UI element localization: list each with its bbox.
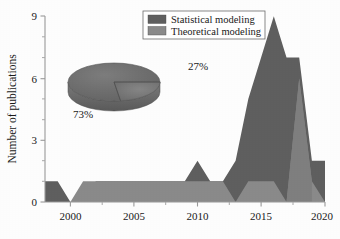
x-tick-label-2010: 2010 (187, 210, 210, 222)
x-tick-label-2020: 2020 (311, 210, 334, 222)
x-tick-label-2005: 2005 (123, 210, 146, 222)
legend-swatch-theoretical-modeling[interactable] (148, 27, 166, 36)
pie-label-27: 27% (188, 60, 208, 72)
x-tick-label-2015: 2015 (250, 210, 273, 222)
y-tick-label-0: 0 (32, 196, 38, 208)
y-tick-label-6: 6 (32, 73, 38, 85)
x-tick-label-2000: 2000 (59, 210, 82, 222)
legend-swatch-statistical-modeling[interactable] (148, 15, 166, 24)
publications-area-chart: 0 3 6 9 2000 2005 2010 2015 2020 Number … (0, 0, 340, 239)
y-tick-label-3: 3 (32, 134, 38, 146)
chart-legend[interactable]: Statistical modeling Theoretical modelin… (143, 11, 265, 39)
pie-label-73: 73% (73, 108, 93, 120)
legend-label-theoretical-modeling[interactable]: Theoretical modeling (171, 26, 262, 37)
chart-figure: 0 3 6 9 2000 2005 2010 2015 2020 Number … (0, 0, 340, 239)
y-tick-label-9: 9 (32, 10, 38, 22)
legend-label-statistical-modeling[interactable]: Statistical modeling (171, 14, 255, 25)
y-axis-title: Number of publications (6, 54, 19, 164)
